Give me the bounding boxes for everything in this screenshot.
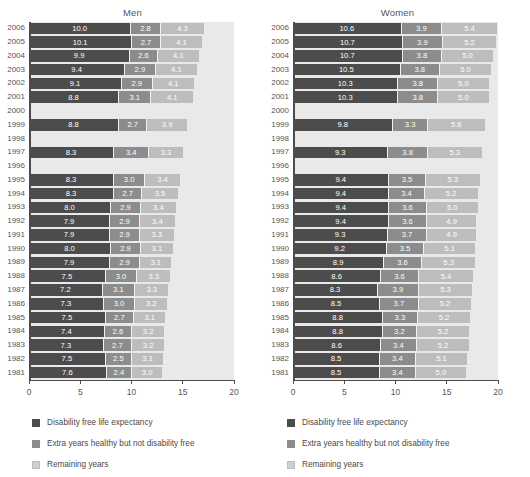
chart-panel-men: Men 200610.02.84.3200510.12.74.120049.92… (0, 0, 265, 410)
bar-row: 19917.92.93.3 (29, 229, 234, 241)
bar-segment: 10.6 (293, 23, 401, 35)
bar-segment: 8.5 (293, 367, 379, 379)
bar-row: 2000 (29, 105, 234, 117)
y-axis-tick-label: 1986 (0, 300, 25, 308)
bar-value-label: 9.4 (335, 175, 346, 184)
bar-value-label: 5.3 (443, 258, 454, 267)
bar-value-label: 5.2 (438, 327, 449, 336)
bar-value-label: 5.0 (447, 203, 458, 212)
bar-segment: 7.3 (29, 298, 103, 310)
bar-segment: 3.0 (103, 298, 134, 310)
y-axis-tick-label: 2004 (0, 52, 25, 60)
y-axis-tick-label: 2001 (0, 93, 25, 101)
stacked-bar: 8.83.25.2 (293, 326, 469, 338)
bar-row: 19939.43.65.0 (293, 202, 498, 214)
stacked-bar: 7.92.93.3 (29, 229, 174, 241)
x-axis-tick (395, 380, 396, 384)
y-axis-tick-label: 1993 (0, 203, 25, 211)
x-axis-tick-label: 15 (442, 387, 451, 397)
bar-row: 200610.02.84.3 (29, 23, 234, 35)
bar-segment: 3.4 (379, 353, 414, 365)
bar-row: 19848.83.25.2 (293, 326, 498, 338)
bar-segment: 2.7 (131, 36, 159, 48)
bar-value-label: 2.7 (114, 313, 125, 322)
y-axis-tick-label: 1981 (265, 369, 289, 377)
bar-segment: 9.3 (293, 229, 387, 241)
y-axis-tick-label: 2002 (0, 79, 25, 87)
bar-value-label: 4.1 (167, 93, 178, 102)
bar-segment: 5.3 (427, 147, 482, 159)
stacked-bar: 8.02.93.1 (29, 243, 173, 255)
bar-value-label: 3.5 (155, 189, 166, 198)
bar-segment: 3.1 (131, 353, 163, 365)
bar-value-label: 3.1 (130, 93, 141, 102)
y-axis-tick-label: 1991 (265, 231, 289, 239)
bar-segment: 5.0 (437, 91, 489, 103)
y-axis-tick-label: 1984 (265, 327, 289, 335)
bar-segment: 5.0 (439, 64, 491, 76)
bar-value-label: 5.2 (440, 299, 451, 308)
bar-segment: 4.1 (160, 36, 203, 48)
stacked-bar: 10.63.95.4 (293, 23, 497, 35)
bar-segment: 5.0 (437, 78, 489, 90)
bar-segment: 8.8 (293, 326, 382, 338)
bar-value-label: 3.3 (146, 285, 157, 294)
stacked-bar: 9.43.45.2 (293, 188, 478, 200)
bar-value-label: 4.1 (171, 65, 182, 74)
bar-value-label: 10.3 (338, 93, 353, 102)
bar-value-label: 2.9 (119, 258, 130, 267)
bar-value-label: 4.9 (446, 217, 457, 226)
bar-row: 200310.53.85.0 (293, 64, 498, 76)
bar-row: 20029.12.94.1 (29, 78, 234, 90)
bar-value-label: 3.2 (143, 341, 154, 350)
legend-men: Disability free life expectancyExtra yea… (0, 412, 265, 475)
y-axis-tick-label: 1996 (265, 162, 289, 170)
stacked-bar: 9.23.55.1 (293, 243, 475, 255)
bar-segment: 5.2 (418, 298, 472, 310)
bar-value-label: 3.0 (142, 368, 153, 377)
bar-segment: 5.3 (421, 257, 476, 269)
bar-segment: 3.9 (146, 119, 186, 131)
bar-row: 200510.12.74.1 (29, 36, 234, 48)
bar-segment: 3.2 (131, 326, 164, 338)
bar-value-label: 7.5 (62, 272, 73, 281)
bar-row: 19818.53.45.0 (293, 367, 498, 379)
bar-row: 19828.53.45.1 (293, 353, 498, 365)
stacked-bar: 8.93.65.3 (293, 257, 475, 269)
stacked-bar: 8.83.14.1 (29, 91, 193, 103)
legend-swatch-icon (32, 419, 40, 427)
y-axis-tick-label: 2000 (265, 107, 289, 115)
bar-segment: 3.8 (397, 91, 437, 103)
bar-value-label: 9.3 (335, 230, 346, 239)
bar-segment: 2.7 (113, 188, 141, 200)
bar-row: 19958.33.03.4 (29, 174, 234, 186)
legend-label: Remaining years (302, 460, 363, 469)
bar-value-label: 5.1 (436, 354, 447, 363)
legend-label: Extra years healthy but not disability f… (302, 439, 449, 448)
bar-value-label: 7.4 (61, 327, 72, 336)
bar-rows-women: 200610.63.95.4200510.73.95.2200410.73.85… (293, 22, 498, 380)
legend-swatch-icon (32, 461, 40, 469)
bar-segment: 5.1 (423, 243, 476, 255)
legend-women: Disability free life expectancyExtra yea… (265, 412, 530, 475)
bar-value-label: 3.5 (400, 244, 411, 253)
legend-label: Disability free life expectancy (47, 418, 153, 427)
stacked-bar: 8.53.45.0 (293, 367, 466, 379)
bar-row: 200510.73.95.2 (293, 36, 498, 48)
bar-segment: 10.7 (293, 36, 402, 48)
stacked-bar: 7.62.43.0 (29, 367, 162, 379)
x-axis-tick (344, 380, 345, 384)
y-axis-tick-label: 1997 (265, 148, 289, 156)
bar-value-label: 5.0 (458, 93, 469, 102)
stacked-bar: 10.33.85.0 (293, 91, 489, 103)
bar-segment: 7.6 (29, 367, 106, 379)
bar-value-label: 5.6 (451, 120, 462, 129)
bar-row: 19897.92.93.1 (29, 257, 234, 269)
bar-segment: 3.6 (383, 257, 421, 269)
bar-segment: 2.8 (130, 23, 159, 35)
stacked-bar: 8.32.73.5 (29, 188, 178, 200)
bar-segment: 9.4 (293, 174, 388, 186)
chart-panel-women: Women 200610.63.95.4200510.73.95.2200410… (265, 0, 530, 410)
bar-value-label: 7.9 (64, 258, 75, 267)
y-axis-tick-label: 1992 (265, 217, 289, 225)
